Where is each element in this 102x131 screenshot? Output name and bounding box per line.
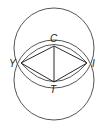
- segment-YC: [21, 46, 54, 63]
- label-T: T: [50, 84, 57, 95]
- label-I: I: [92, 58, 95, 69]
- segment-TY: [21, 63, 54, 82]
- segment-IT: [54, 63, 87, 82]
- geometry-diagram: C Y I T: [0, 0, 102, 131]
- segment-CI: [54, 46, 87, 63]
- label-C: C: [50, 33, 58, 44]
- diagram-canvas: C Y I T: [0, 0, 102, 131]
